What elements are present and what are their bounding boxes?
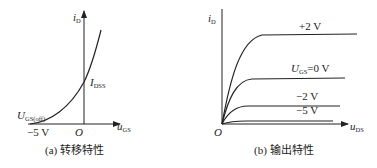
cutoff-value-label: −5 V — [27, 127, 49, 138]
right-x-axis-label: uDS — [350, 121, 364, 134]
ugs-off-label: UGS(off) — [17, 110, 45, 123]
left-origin-label: O — [75, 127, 83, 138]
right-y-axis-label: iD — [208, 13, 216, 26]
left-caption: (a) 转移特性 — [45, 145, 104, 156]
right-origin-label: O — [214, 127, 222, 138]
curve-label-0v: UGS=0 V — [291, 63, 329, 76]
right-caption: (b) 输出特性 — [254, 145, 314, 156]
curve-label-minus5v: −5 V — [296, 105, 318, 116]
left-x-axis-label: uGS — [117, 121, 131, 134]
curve-0v — [222, 78, 345, 124]
idss-label: IDSS — [90, 77, 106, 90]
curve-label-minus2v: −2 V — [296, 91, 318, 102]
curve-label-plus2v: +2 V — [299, 21, 321, 32]
left-y-axis-label: iD — [73, 12, 81, 25]
